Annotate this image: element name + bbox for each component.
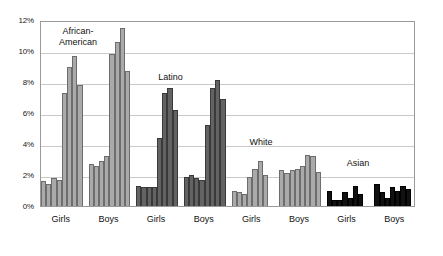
bar-white-girls-6 [263,175,268,206]
bar-asian-boys-6 [406,189,411,206]
y-tick-label-2: 2% [4,171,34,180]
bar-asian-girls-6 [358,194,363,206]
bars-layer [41,22,414,206]
annotation-latino: Latino [158,72,183,83]
x-tick-label-african-american-girls: Girls [40,214,82,224]
bar-african-american-girls-7 [77,85,82,206]
x-tick-label-asian-girls: Girls [326,214,368,224]
annotation-african-american: African- American [59,26,97,48]
bar-chart: 0%2%4%6%8%10%12% African- AmericanLatino… [0,0,443,256]
y-tick-label-12: 12% [4,16,34,25]
x-tick-label-latino-girls: Girls [135,214,177,224]
bar-white-boys-7 [316,172,321,206]
x-tick-label-white-girls: Girls [231,214,273,224]
x-tick-label-latino-boys: Boys [183,214,225,224]
bar-african-american-boys-7 [125,71,130,206]
bar-latino-girls-7 [173,110,178,206]
y-tick-label-10: 10% [4,47,34,56]
bar-latino-boys-7 [220,99,225,206]
annotation-white: White [250,137,273,148]
y-tick-label-6: 6% [4,109,34,118]
x-tick-label-asian-boys: Boys [373,214,415,224]
y-tick-label-8: 8% [4,78,34,87]
plot-area: African- AmericanLatinoWhiteAsian [40,21,415,207]
y-tick-label-4: 4% [4,140,34,149]
x-tick-label-african-american-boys: Boys [88,214,130,224]
x-tick-label-white-boys: Boys [278,214,320,224]
x-axis: GirlsBoysGirlsBoysGirlsBoysGirlsBoys [0,207,443,237]
annotation-asian: Asian [347,158,370,169]
